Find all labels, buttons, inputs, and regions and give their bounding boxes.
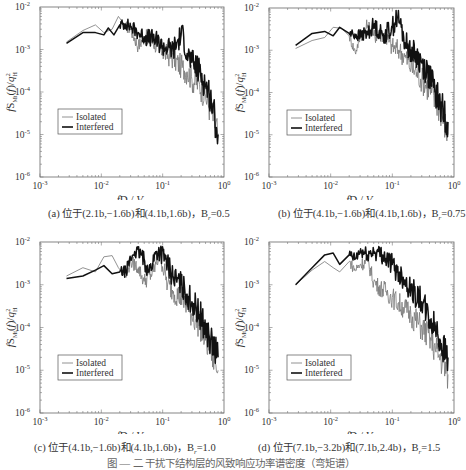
caption-b-text: (b) 位于(4.1b,−1.6b)和(4.1b,1.6b)，B xyxy=(278,208,439,219)
legend-isolated-label: Isolated xyxy=(305,113,335,123)
y-tick-label: 10-3 xyxy=(15,278,30,290)
y-tick-label: 10-3 xyxy=(15,43,30,55)
y-tick-label: 10-3 xyxy=(244,43,259,55)
y-tick-label: 10-6 xyxy=(15,170,31,182)
y-axis-label: fSMt(f)/qH2 xyxy=(4,307,18,347)
caption-d: (d) 位于(7.1b,−3.2b)和(7.1b,2.4b)，Br=1.5 xyxy=(258,439,440,456)
panel-a: 10-310-210-110010-610-510-410-310-2fD / … xyxy=(0,0,231,225)
series-interfered-line xyxy=(67,246,219,363)
y-tick-label: 10-4 xyxy=(244,86,260,98)
y-tick-label: 10-6 xyxy=(15,406,31,418)
legend-interfered-label: Interfered xyxy=(305,368,343,378)
legend-isolated-label: Isolated xyxy=(76,358,106,368)
chart-b: 10-310-210-110010-610-510-410-310-2fD / … xyxy=(229,0,462,200)
chart-c: 10-310-210-110010-610-510-410-310-2fD / … xyxy=(0,234,231,434)
y-tick-label: 10-5 xyxy=(244,128,259,140)
y-tick-label: 10-2 xyxy=(244,235,259,247)
x-tick-label: 10-1 xyxy=(385,415,400,427)
x-tick-label: 10-3 xyxy=(33,415,48,427)
caption-b-value: =0.75 xyxy=(441,208,465,219)
y-tick-label: 10-5 xyxy=(15,363,30,375)
x-tick-label: 100 xyxy=(448,179,461,191)
caption-b: (b) 位于(4.1b,−1.6b)和(4.1b,1.6b)，Br=0.75 xyxy=(278,205,466,222)
y-tick-label: 10-5 xyxy=(244,363,259,375)
y-tick-label: 10-3 xyxy=(244,278,259,290)
caption-c-text: (c) 位于(4.1b,−1.6b)和(4.1b,1.6b)，B xyxy=(34,442,194,453)
y-axis-label: fSMt(f)/qH2 xyxy=(4,72,18,112)
caption-c: (c) 位于(4.1b,−1.6b)和(4.1b,1.6b)，Br=1.0 xyxy=(34,439,216,456)
legend: IsolatedInterfered xyxy=(287,110,351,135)
panel-b: 10-310-210-110010-610-510-410-310-2fD / … xyxy=(229,0,462,225)
legend-isolated-label: Isolated xyxy=(76,112,106,122)
legend-interfered-label: Interfered xyxy=(305,123,343,133)
x-tick-label: 10-3 xyxy=(262,179,277,191)
x-axis-label: fD / VH xyxy=(117,429,148,434)
y-axis-label: fSMt(f)/qH2 xyxy=(233,307,247,347)
chart-a: 10-310-210-110010-610-510-410-310-2fD / … xyxy=(0,0,231,200)
x-axis-label: fD / VH xyxy=(346,193,377,200)
legend-interfered-label: Interfered xyxy=(76,368,114,378)
x-tick-label: 10-2 xyxy=(94,179,109,191)
y-tick-label: 10-2 xyxy=(244,1,259,13)
x-tick-label: 10-3 xyxy=(33,179,48,191)
x-tick-label: 10-2 xyxy=(323,415,338,427)
x-axis-label: fD / VH xyxy=(117,193,148,200)
x-tick-label: 10-2 xyxy=(323,179,338,191)
y-tick-label: 10-4 xyxy=(15,321,31,333)
caption-c-value: =1.0 xyxy=(197,442,216,453)
y-tick-label: 10-6 xyxy=(244,170,260,182)
y-tick-label: 10-2 xyxy=(15,235,30,247)
caption-d-value: =1.5 xyxy=(421,442,440,453)
caption-a: (a) 位于(2.1b,−1.6b)和(4.1b,1.6b)，Br=0.5 xyxy=(48,205,230,222)
legend: IsolatedInterfered xyxy=(58,109,122,134)
caption-a-value: =0.5 xyxy=(211,208,230,219)
caption-d-text: (d) 位于(7.1b,−3.2b)和(7.1b,2.4b)，B xyxy=(258,442,419,453)
x-axis-label: fD / VH xyxy=(346,429,377,434)
x-tick-label: 10-3 xyxy=(262,415,277,427)
x-tick-label: 10-1 xyxy=(155,179,170,191)
chart-d: 10-310-210-110010-610-510-410-310-2fD / … xyxy=(229,234,462,434)
caption-a-text: (a) 位于(2.1b,−1.6b)和(4.1b,1.6b)，B xyxy=(48,208,208,219)
x-tick-label: 100 xyxy=(448,415,461,427)
y-tick-label: 10-4 xyxy=(244,321,260,333)
series-interfered-line xyxy=(296,247,448,371)
legend: IsolatedInterfered xyxy=(287,355,351,380)
figure-caption: 图 — 二 干扰下结构层的风致响应功率谱密度（弯矩谱） xyxy=(0,455,462,470)
y-tick-label: 10-5 xyxy=(15,128,30,140)
y-axis-label: fSMt(f)/qH2 xyxy=(233,72,247,112)
x-tick-label: 10-1 xyxy=(385,179,400,191)
legend-interfered-label: Interfered xyxy=(76,122,114,132)
y-tick-label: 10-4 xyxy=(15,85,31,97)
x-tick-label: 10-2 xyxy=(94,415,109,427)
legend-isolated-label: Isolated xyxy=(305,358,335,368)
y-tick-label: 10-6 xyxy=(244,406,260,418)
x-tick-label: 10-1 xyxy=(155,415,170,427)
y-tick-label: 10-2 xyxy=(15,0,30,12)
panel-c: 10-310-210-110010-610-510-410-310-2fD / … xyxy=(0,234,231,449)
panel-d: 10-310-210-110010-610-510-410-310-2fD / … xyxy=(229,234,462,449)
legend: IsolatedInterfered xyxy=(58,355,122,380)
